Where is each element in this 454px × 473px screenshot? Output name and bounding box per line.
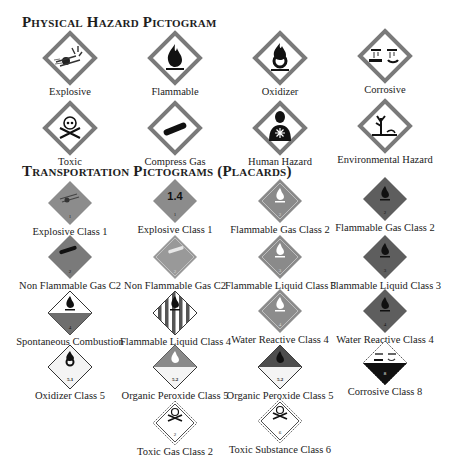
ghs-flammable: Flammable [120,30,230,97]
placard-flammable-solid-4: Flammable Liquid Class 4 [120,290,230,347]
placard-label: Corrosive Class 8 [330,386,440,397]
flame-icon [152,290,198,336]
ghs-label: Toxic [15,156,125,167]
flame-icon: 3 [257,234,303,280]
svg-text:1.4: 1.4 [167,190,183,202]
placard-spontaneous-combustion: 4 Spontaneous Combustion [15,290,125,347]
placard-flammable-gas-2b: 2 Flammable Gas Class 2 [330,176,440,233]
ghs-label: Corrosive [330,84,440,95]
placard-non-flammable-gas-b: 2 Non Flammable Gas C2 [120,234,230,291]
exploding-bomb-icon: 1 [47,180,93,226]
placard-explosive-1: 1 Explosive Class 1 [15,180,125,237]
number-1-4-icon: 1.4 1 [152,178,198,224]
flame-icon: 5.2 [257,344,303,390]
placard-organic-peroxide-5b: 5.2 Organic Peroxide Class 5 [225,344,335,401]
placard-label: Oxidizer Class 5 [15,390,125,401]
placard-label: Toxic Gas Class 2 [120,446,230,457]
ghs-label: Oxidizer [225,86,335,97]
flame-icon: 2 [362,176,408,222]
skull-crossbones-icon: 6 [257,398,303,444]
flame-icon: 5.2 [152,344,198,390]
physical-hazard-title: Physical Hazard Pictogram [22,14,216,31]
placard-corrosive-8: 8 Corrosive Class 8 [330,340,440,397]
flame-over-circle-icon [252,30,308,86]
skull-crossbones-icon [42,100,98,156]
ghs-human-hazard: Human Hazard [225,100,335,167]
placard-organic-peroxide-5a: 5.2 Organic Peroxide Class 5 [120,344,230,401]
ghs-label: Human Hazard [225,156,335,167]
flame-over-circle-icon: 5.1 [47,344,93,390]
ghs-environmental: Environmental Hazard [330,98,440,165]
ghs-label: Environmental Hazard [330,154,440,165]
placard-oxidizer-5: 5.1 Oxidizer Class 5 [15,344,125,401]
gas-cylinder-icon: 2 [152,234,198,280]
ghs-compress-gas: Compress Gas [120,100,230,167]
ghs-label: Compress Gas [120,156,230,167]
placard-flammable-liquid-3a: 3 Flammable Liquid Class 3 [225,234,335,291]
environment-icon [357,98,413,154]
ghs-label: Flammable [120,86,230,97]
ghs-explosive: Explosive [15,30,125,97]
gas-cylinder-icon [147,100,203,156]
gas-cylinder-icon: 2 [47,234,93,280]
placard-non-flammable-gas-a: 2 Non Flammable Gas C2 [15,234,125,291]
placard-toxic-substance-6: 6 Toxic Substance Class 6 [225,398,335,455]
placard-flammable-gas-2a: 2 Flammable Gas Class 2 [225,178,335,235]
placard-explosive-1-4: 1.4 1 Explosive Class 1 [120,178,230,235]
flame-icon: 4 [362,288,408,334]
ghs-label: Explosive [15,86,125,97]
flame-icon: 4 [47,290,93,336]
flame-icon: 4 [257,288,303,334]
svg-text:5.1: 5.1 [67,377,74,382]
flame-icon: 3 [362,234,408,280]
corrosion-icon [357,28,413,84]
placard-water-reactive-4a: 4 Water Reactive Class 4 [225,288,335,345]
placard-label: Flammable Gas Class 2 [330,222,440,233]
ghs-oxidizer: Oxidizer [225,30,335,97]
placard-toxic-gas-2: 2 Toxic Gas Class 2 [120,400,230,457]
ghs-corrosive: Corrosive [330,28,440,95]
flame-icon: 2 [257,178,303,224]
ghs-toxic: Toxic [15,100,125,167]
placard-label: Toxic Substance Class 6 [225,444,335,455]
svg-text:5.2: 5.2 [172,377,179,382]
placard-water-reactive-4b: 4 Water Reactive Class 4 [330,288,440,345]
skull-crossbones-icon: 2 [152,400,198,446]
svg-text:5.2: 5.2 [277,377,284,382]
corrosion-icon: 8 [362,340,408,386]
flame-icon [147,30,203,86]
exploding-bomb-icon [42,30,98,86]
health-hazard-icon [252,100,308,156]
placard-flammable-liquid-3b: 3 Flammable Liquid Class 3 [330,234,440,291]
